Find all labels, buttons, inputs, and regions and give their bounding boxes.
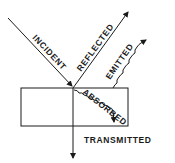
emitted-label: EMITTED [103, 41, 135, 81]
radiation-interaction-diagram: INCIDENT REFLECTED EMITTED ABSORBED TRAN… [0, 0, 175, 163]
absorbed-label: ABSORBED [81, 87, 129, 128]
transmitted-label: TRANSMITTED [84, 135, 152, 145]
incident-arrow [8, 18, 72, 86]
incident-label: INCIDENT [31, 33, 69, 73]
